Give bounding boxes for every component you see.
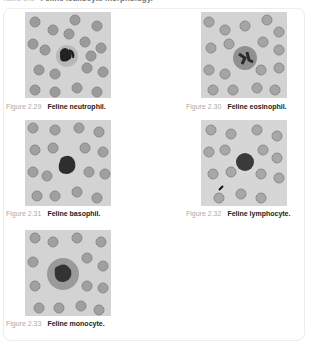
neutrophil-image <box>25 12 111 98</box>
figure-caption: Figure 2.32Feline lymphocyte. <box>186 210 290 217</box>
table-number: Table 2.6 <box>2 0 34 3</box>
figure-title: Feline neutrophil. <box>47 103 105 110</box>
figure-caption: Figure 2.31Feline basophil. <box>6 210 100 217</box>
basophil-image <box>25 120 111 206</box>
figure-number: Figure 2.29 <box>6 103 41 110</box>
monocyte-image <box>25 230 111 316</box>
figure-title: Feline monocyte. <box>47 320 104 327</box>
figure-number: Figure 2.33 <box>6 320 41 327</box>
figure-caption: Figure 2.30Feline eosinophil. <box>186 103 287 110</box>
figure-title: Feline lymphocyte. <box>227 210 290 217</box>
figure-number: Figure 2.30 <box>186 103 221 110</box>
figure-number: Figure 2.32 <box>186 210 221 217</box>
figure-caption: Figure 2.29Feline neutrophil. <box>6 103 106 110</box>
figure-number: Figure 2.31 <box>6 210 41 217</box>
lymphocyte-image <box>201 120 287 206</box>
table-header: Table 2.6Feline leukocyte morphology. <box>2 0 153 3</box>
figure-title: Feline eosinophil. <box>227 103 286 110</box>
eosinophil-image <box>201 12 287 98</box>
table-title: Feline leukocyte morphology. <box>40 0 152 3</box>
figure-title: Feline basophil. <box>47 210 100 217</box>
figure-caption: Figure 2.33Feline monocyte. <box>6 320 105 327</box>
